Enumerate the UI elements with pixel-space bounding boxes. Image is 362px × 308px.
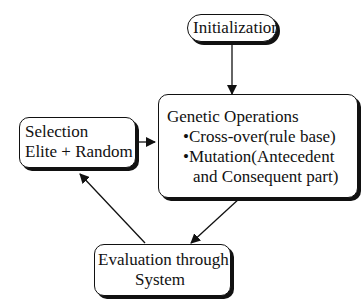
node-genetic-operations: Genetic Operations •Cross-over(rule base…: [158, 94, 358, 198]
initialization-label: Initialization: [193, 18, 280, 38]
selection-line1: Selection: [25, 122, 88, 142]
edge-genetic-to-evaluation: [191, 198, 240, 243]
genetic-operations-title: Genetic Operations: [167, 107, 299, 127]
bullet-mutation: •Mutation(Antecedent: [183, 147, 334, 167]
node-selection: Selection Elite + Random: [19, 117, 136, 168]
evaluation-line1: Evaluation through: [98, 250, 229, 270]
selection-line2: Elite + Random: [25, 142, 133, 162]
bullet-crossover: •Cross-over(rule base): [183, 127, 336, 147]
bullet-mutation-cont: and Consequent part): [193, 167, 338, 187]
evaluation-line2: System: [135, 270, 185, 290]
edge-evaluation-to-selection: [80, 174, 145, 243]
node-initialization: Initialization: [187, 14, 277, 42]
node-evaluation: Evaluation through System: [94, 244, 231, 296]
